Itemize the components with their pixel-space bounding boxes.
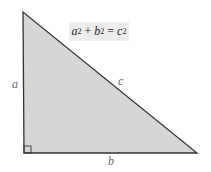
label-side-a: a [12,78,18,90]
label-side-c: c [118,75,123,87]
pythagorean-formula: a2 + b2 = c2 [69,22,129,41]
formula-plus: + [85,24,92,39]
label-side-b: b [108,155,114,167]
formula-equals: = [107,24,114,39]
formula-a: a [72,24,78,39]
